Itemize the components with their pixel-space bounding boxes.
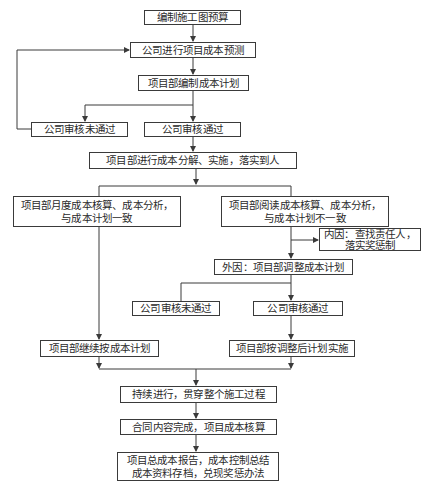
flowchart-canvas: 编制施工图预算 公司进行项目成本预测 项目部编制成本计划 公司审核未通过 公司审… <box>0 0 432 496</box>
node-label-line1: 项目总成本报告，成本控制总结 <box>127 454 270 467</box>
node-cost-breakdown: 项目部进行成本分解、实施，落实到人 <box>89 152 297 169</box>
node-label-line2: 与成本计划一致 <box>61 212 132 225</box>
node-contract-complete: 合同内容完成，项目成本核算 <box>120 419 277 435</box>
node-internal-cause: 内因：查找责任人， 落实奖惩制 <box>319 228 421 251</box>
node-label-line1: 内因：查找责任人， <box>324 229 416 240</box>
node-cost-plan: 项目部编制成本计划 <box>138 75 249 91</box>
node-final-report: 项目总成本报告，成本控制总结 成本资料存档，兑现奖惩办法 <box>117 452 279 481</box>
node-label: 持续进行，贯穿整个施工过程 <box>132 388 265 401</box>
node-compile-budget: 编制施工图预算 <box>144 10 241 25</box>
node-label: 项目部按调整后计划实施 <box>236 342 348 355</box>
node-label-line1: 项目部阅读成本核算、成本分析， <box>229 199 382 212</box>
node-label: 项目部继续按成本计划 <box>49 342 151 355</box>
node-label: 编制施工图预算 <box>157 11 228 24</box>
node-review-approved-2: 公司审核通过 <box>253 301 343 316</box>
node-label: 外因：项目部调整成本计划 <box>222 261 344 274</box>
node-external-cause: 外因：项目部调整成本计划 <box>214 259 353 275</box>
node-label: 公司进行项目成本预测 <box>142 44 244 57</box>
node-inconsistent: 项目部阅读成本核算、成本分析， 与成本计划不一致 <box>221 196 389 227</box>
node-label: 公司审核未通过 <box>140 302 211 315</box>
node-label-line2: 与成本计划不一致 <box>264 212 346 225</box>
node-adjusted-plan: 项目部按调整后计划实施 <box>229 340 355 357</box>
node-label-line2: 落实奖惩制 <box>345 240 396 251</box>
node-review-rejected-1: 公司审核未通过 <box>31 122 128 137</box>
node-continue-plan: 项目部继续按成本计划 <box>40 340 159 357</box>
node-label: 合同内容完成，项目成本核算 <box>132 421 265 434</box>
node-label-line2: 成本资料存档，兑现奖惩办法 <box>132 467 265 480</box>
node-review-rejected-2: 公司审核未通过 <box>132 301 220 316</box>
node-cost-forecast: 公司进行项目成本预测 <box>130 42 256 58</box>
node-label-line1: 项目部月度成本核算、成本分析， <box>21 199 174 212</box>
node-monthly-consistent: 项目部月度成本核算、成本分析， 与成本计划一致 <box>13 196 181 227</box>
node-label: 公司审核通过 <box>267 302 328 315</box>
node-label: 公司审核通过 <box>162 123 223 136</box>
node-label: 公司审核未通过 <box>44 123 115 136</box>
node-label: 项目部进行成本分解、实施，落实到人 <box>106 154 279 167</box>
node-label: 项目部编制成本计划 <box>148 77 240 90</box>
node-continuous-process: 持续进行，贯穿整个施工过程 <box>120 386 277 403</box>
node-review-approved-1: 公司审核通过 <box>144 122 241 137</box>
